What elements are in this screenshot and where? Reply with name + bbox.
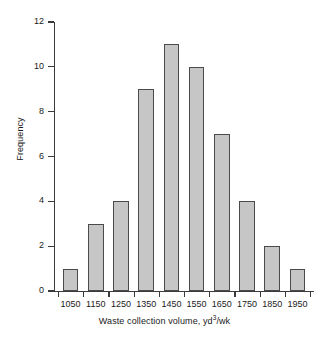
x-axis-title-superscript: 3 [213,314,217,321]
histogram-bar [290,269,306,291]
histogram-bar [88,224,104,291]
y-axis-tick-label: 8 [4,107,44,116]
histogram-bar [164,44,180,291]
x-axis-tick [184,292,185,297]
y-axis-tick-label: 2 [4,241,44,250]
histogram-bar [113,201,129,291]
histogram-figure: Frequency 024681012 10501150125013501450… [0,0,329,338]
histogram-bar [214,134,230,291]
histogram-bar [189,67,205,291]
histogram-bar [264,246,280,291]
x-axis-title: Waste collection volume, yd3/wk [0,316,329,326]
x-axis-tick [209,292,210,297]
x-axis-tick [310,292,311,297]
y-axis-tick [48,21,54,22]
y-axis-tick-label: 10 [4,62,44,71]
y-axis-tick-label: 4 [4,196,44,205]
histogram-bar [63,269,79,291]
x-axis-tick [58,292,59,297]
y-axis-tick [48,201,54,202]
y-axis-tick-label: 12 [4,17,44,26]
y-axis-tick-label: 6 [4,152,44,161]
x-axis-tick-label: 1950 [277,299,317,309]
y-axis-tick [48,156,54,157]
x-axis-tick [234,292,235,297]
x-axis-tick [159,292,160,297]
histogram-bar [138,89,154,291]
y-axis-tick [48,66,54,67]
histogram-bar [239,201,255,291]
x-axis-tick [260,292,261,297]
x-axis-tick [83,292,84,297]
y-axis-tick [48,246,54,247]
x-axis-tick [108,292,109,297]
x-axis-tick [285,292,286,297]
x-axis-tick [134,292,135,297]
y-axis-tick [48,111,54,112]
y-axis-line [54,22,55,292]
y-axis-tick-label: 0 [4,286,44,295]
